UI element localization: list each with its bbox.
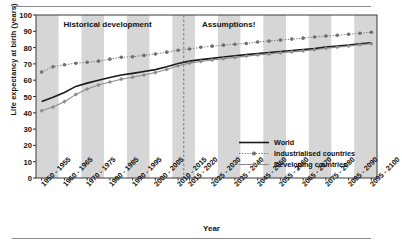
y-tick-label: 30 xyxy=(6,125,32,134)
y-tick-label: 0 xyxy=(6,174,32,183)
legend-label: World xyxy=(274,138,294,147)
legend-label: Developing countries xyxy=(274,160,347,169)
y-tick-label: 60 xyxy=(6,76,32,85)
y-tick-label: 20 xyxy=(6,141,32,150)
legend-swatch-line xyxy=(238,138,270,147)
y-tick-label: 50 xyxy=(6,92,32,101)
y-tick-label: 80 xyxy=(6,43,32,52)
legend-item-world[interactable]: World xyxy=(238,137,294,147)
x-axis-title-text: Year xyxy=(203,224,220,233)
y-tick-label: 10 xyxy=(6,157,32,166)
y-tick-label: 100 xyxy=(6,11,32,20)
chart-annotation: Assumptions! xyxy=(202,20,255,29)
chart-annotation: Historical development xyxy=(64,20,152,29)
y-tick-label: 90 xyxy=(6,27,32,36)
legend-swatch-diamond xyxy=(238,160,270,169)
y-tick-label: 70 xyxy=(6,59,32,68)
legend-item-developing-countries[interactable]: Developing countries xyxy=(238,159,347,169)
legend-item-industrialised-countries[interactable]: Industrialised countries xyxy=(238,148,355,158)
x-axis-title: Year xyxy=(0,224,383,233)
legend-label: Industrialised countries xyxy=(274,149,355,158)
legend-swatch-circle xyxy=(238,149,270,158)
y-tick-label: 40 xyxy=(6,108,32,117)
